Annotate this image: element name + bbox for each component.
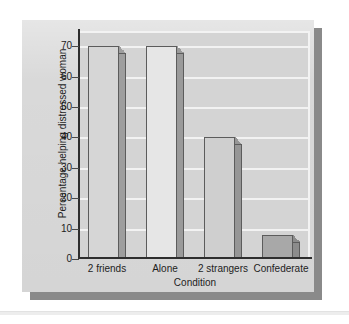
y-tick-mark: [72, 198, 79, 199]
bar-top-face: [293, 235, 300, 242]
y-tick-mark: [72, 107, 79, 108]
y-tick-mark: [72, 46, 79, 47]
y-axis-line: [78, 29, 80, 259]
y-tick-mark: [72, 229, 79, 230]
x-axis-line: [78, 257, 312, 259]
y-axis-title: Percentage helping distressed woman: [57, 34, 68, 234]
bar-chart-panel: 010203040506070 2 friendsAlone2 stranger…: [22, 20, 314, 292]
bar-top-face: [235, 137, 242, 144]
bar: [88, 46, 119, 259]
bar-side-face: [177, 53, 184, 259]
bar-top-face: [177, 46, 184, 53]
bar-front-face: [88, 46, 119, 259]
bar-side-face: [235, 144, 242, 259]
bottom-divider-rule: [0, 311, 349, 315]
y-tick-mark: [72, 137, 79, 138]
y-tick-mark: [72, 168, 79, 169]
x-tick-label: Confederate: [246, 263, 316, 275]
bar: [204, 137, 235, 259]
bar-front-face: [204, 137, 235, 259]
bar: [262, 235, 293, 259]
bar-side-face: [119, 53, 126, 259]
y-tick-mark: [72, 77, 79, 78]
bar-front-face: [262, 235, 293, 259]
bar-front-face: [146, 46, 177, 259]
y-tick-mark: [72, 259, 79, 260]
bar: [146, 46, 177, 259]
y-tick-label: 0: [38, 254, 72, 264]
bar-top-face: [119, 46, 126, 53]
figure-root: 010203040506070 2 friendsAlone2 stranger…: [0, 0, 349, 324]
x-axis-title: Condition: [78, 277, 312, 288]
